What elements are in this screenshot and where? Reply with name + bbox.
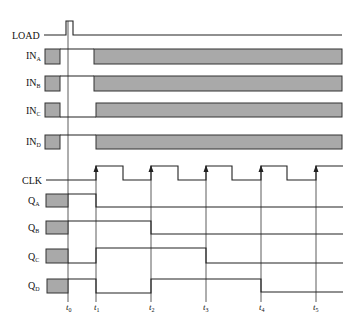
time-labels: t0 t1 t2 t3 t4 t5 [66,302,319,313]
q-c-line [68,248,343,263]
waveform-q-b [46,221,343,234]
label-q-a: QA [28,195,40,207]
waveform-in-b [45,76,342,91]
in-c-data-after [96,103,342,117]
waveform-in-c [45,103,342,117]
label-load: LOAD [12,30,40,41]
time-label-t0: t0 [66,302,72,313]
clk-line [46,166,343,180]
waveform-load [44,21,342,35]
q-a-unknown [46,194,68,207]
q-c-unknown [46,249,68,263]
in-b-data-after [94,76,342,91]
label-q-d: QD [28,280,40,292]
q-b-unknown [46,221,68,234]
in-d-data-after [96,135,342,149]
in-b-data-before [45,76,60,91]
in-a-data-after [94,49,342,64]
waveform-in-d [45,135,342,149]
label-in-c: INC [26,105,41,117]
label-clk: CLK [22,175,43,186]
signal-labels: LOAD INA INB INC IND CLK QA QB QC QD [12,30,43,292]
waveform-q-c [46,248,343,263]
q-d-unknown [47,279,68,293]
q-d-line [68,279,343,293]
waveform-q-a [46,194,343,207]
waveform-q-d [47,279,343,293]
in-d-data-before [45,135,60,149]
label-in-a: INA [26,50,42,62]
q-a-line [68,194,343,207]
time-label-t3: t3 [203,302,209,313]
label-q-b: QB [28,222,39,234]
time-label-t2: t2 [149,302,155,313]
waveform-in-a [45,49,342,64]
time-label-t1: t1 [94,302,100,313]
q-b-line [68,221,343,234]
label-q-c: QC [28,251,39,263]
label-in-d: IND [26,136,42,148]
in-a-data-before [45,49,60,64]
time-label-t4: t4 [259,302,265,313]
timing-diagram: LOAD INA INB INC IND CLK QA QB QC QD [0,0,357,326]
time-label-t5: t5 [313,302,319,313]
label-in-b: INB [26,77,41,89]
waveform-clk [46,165,343,180]
in-c-data-before [45,103,60,117]
